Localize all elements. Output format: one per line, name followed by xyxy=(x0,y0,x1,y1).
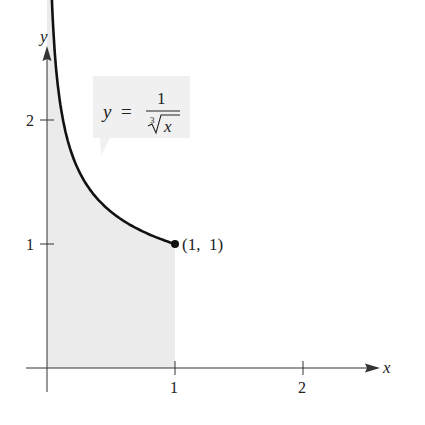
callout-eq: = xyxy=(121,101,132,122)
callout-lhs: y xyxy=(101,101,112,122)
x-tick-label-2: 2 xyxy=(298,379,306,396)
function-callout: y = 1 3 x xyxy=(93,76,190,155)
chart: y = 1 3 x x y 1 2 1 2 (1, 1) xyxy=(0,0,425,425)
x-axis-arrow-icon xyxy=(365,364,380,373)
endpoint-marker xyxy=(171,240,179,248)
radical-index: 3 xyxy=(150,115,155,125)
shaded-region xyxy=(47,0,175,368)
endpoint-label: (1, 1) xyxy=(182,235,223,254)
x-axis-label: x xyxy=(382,358,391,377)
x-tick-label-1: 1 xyxy=(170,379,178,396)
radicand: x xyxy=(163,117,172,136)
y-tick-label-2: 2 xyxy=(26,112,34,129)
callout-numerator: 1 xyxy=(157,89,166,108)
y-tick-label-1: 1 xyxy=(26,236,34,253)
y-axis-label: y xyxy=(38,27,48,46)
